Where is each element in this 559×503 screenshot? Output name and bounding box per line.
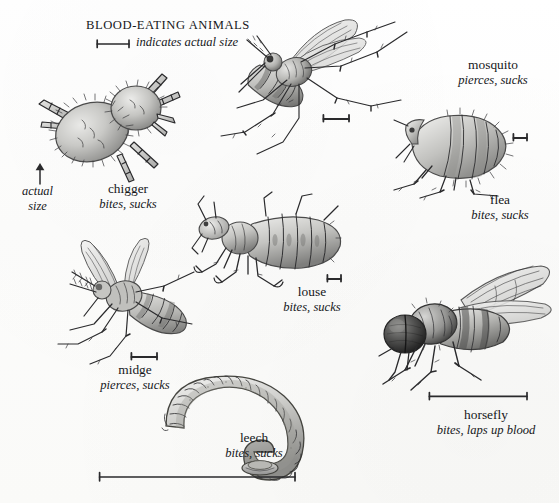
scale-bar-flea xyxy=(512,131,534,143)
actual-size-arrow xyxy=(30,162,52,186)
label-horsefly-feeding: bites, laps up blood xyxy=(416,423,556,438)
label-chigger-feeding: bites, sucks xyxy=(82,197,174,212)
illustration-plate: BLOOD-EATING ANIMALS indicates actual si… xyxy=(0,0,559,503)
label-flea-feeding: bites, sucks xyxy=(452,208,548,223)
figure-midge xyxy=(48,238,228,368)
figure-chigger xyxy=(30,62,200,187)
label-leech: leech bites, sucks xyxy=(208,430,300,461)
label-flea-name: flea xyxy=(452,192,548,208)
figure-horsefly xyxy=(375,250,559,400)
scale-bar-mosquito xyxy=(322,112,356,124)
scale-bar-horsefly xyxy=(428,390,536,402)
label-mosquito-feeding: pierces, sucks xyxy=(438,73,548,88)
label-louse: louse bites, sucks xyxy=(266,284,358,315)
label-chigger-name: chigger xyxy=(82,181,174,197)
figure-flea xyxy=(382,100,522,200)
label-louse-name: louse xyxy=(266,284,358,300)
scale-bar-midge xyxy=(130,350,164,362)
actual-size-caption: actual size xyxy=(22,184,53,214)
scale-bar-louse xyxy=(326,272,348,284)
label-mosquito: mosquito pierces, sucks xyxy=(438,57,548,88)
label-horsefly-name: horsefly xyxy=(416,407,556,423)
label-leech-feeding: bites, sucks xyxy=(208,446,300,461)
actual-size-line-2: size xyxy=(28,199,47,213)
label-horsefly: horsefly bites, laps up blood xyxy=(416,407,556,438)
label-flea: flea bites, sucks xyxy=(452,192,548,223)
label-chigger: chigger bites, sucks xyxy=(82,181,174,212)
scale-bar-leech xyxy=(98,470,304,484)
legend-scale-bar xyxy=(96,38,134,50)
label-leech-name: leech xyxy=(208,430,300,446)
label-louse-feeding: bites, sucks xyxy=(266,300,358,315)
label-mosquito-name: mosquito xyxy=(438,57,548,73)
actual-size-line-1: actual xyxy=(22,184,53,198)
